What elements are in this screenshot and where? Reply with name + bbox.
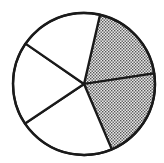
pie-slices [13,13,155,155]
pie-chart [0,0,164,163]
